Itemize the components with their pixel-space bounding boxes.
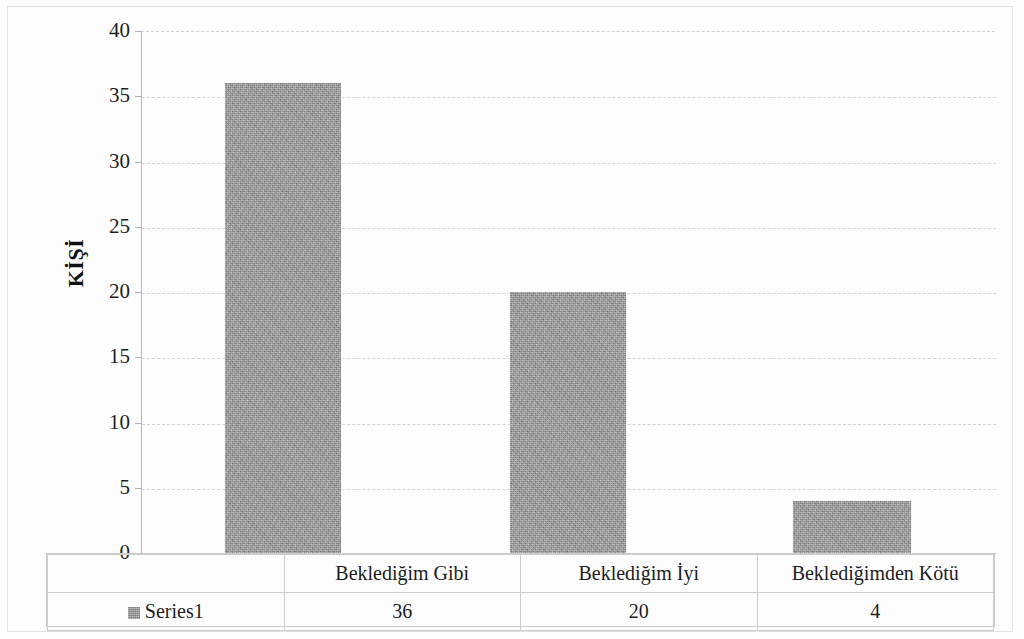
legend-label: Series1 [145,600,204,622]
bar-beklediğim-gibi [225,83,341,553]
legend-spacer-cell [48,555,285,593]
y-tick-label: 5 [84,477,130,498]
bar-beklediğim-iyi [510,292,626,553]
y-tick-label: 20 [84,281,130,302]
legend-swatch-icon [128,607,140,619]
plot-area [141,31,995,553]
bar-beklediğimden-kötü [793,501,911,553]
bar-chart-figure: KİŞİ 40 35 30 25 20 15 10 5 0 [0,0,1024,639]
data-table: Beklediğim Gibi Beklediğim İyi Beklediği… [46,553,995,627]
value-cell: 4 [757,593,994,631]
value-cell: 20 [521,593,758,631]
y-tick-label: 30 [84,151,130,172]
y-tick-label: 25 [84,216,130,237]
y-tick-label: 35 [84,85,130,106]
y-tick-label: 10 [84,412,130,433]
value-cell: 36 [284,593,521,631]
category-label-cell: Beklediğim İyi [521,555,758,593]
category-label-cell: Beklediğimden Kötü [757,555,994,593]
category-label-cell: Beklediğim Gibi [284,555,521,593]
table-row-values: Series1 36 20 4 [48,593,994,631]
y-tick-label: 40 [84,20,130,41]
table-row-categories: Beklediğim Gibi Beklediğim İyi Beklediği… [48,555,994,593]
y-axis-tick-labels: 40 35 30 25 20 15 10 5 0 [78,31,130,553]
y-tick-label: 15 [84,346,130,367]
legend-entry-series1: Series1 [48,593,285,631]
